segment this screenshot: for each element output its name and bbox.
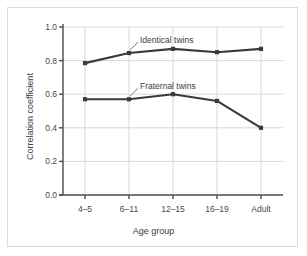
series-marker	[83, 61, 87, 65]
y-tick-label: 0.0	[31, 191, 57, 200]
series-annotation-label: Fraternal twins	[140, 82, 196, 91]
x-axis-title: Age group	[0, 227, 307, 236]
series-marker	[259, 126, 263, 130]
series-marker	[127, 97, 131, 101]
axis-tick-marks	[59, 27, 261, 199]
series-annotation-label: Identical twins	[140, 36, 193, 45]
annotation-leader-lines	[130, 42, 138, 96]
y-axis-title: Correlation coefficient	[26, 73, 35, 160]
series-marker	[215, 50, 219, 54]
y-tick-label: 0.8	[31, 57, 57, 66]
series-marker	[83, 97, 87, 101]
y-tick-label: 0.4	[31, 124, 57, 133]
series-marker	[171, 47, 175, 51]
x-tick-label: 16–19	[192, 205, 242, 214]
series-marker	[171, 92, 175, 96]
annotation-leader-line	[130, 88, 138, 96]
x-tick-label: 6–11	[104, 205, 154, 214]
y-tick-label: 0.2	[31, 157, 57, 166]
annotation-leader-line	[130, 42, 138, 50]
x-tick-label: Adult	[236, 205, 286, 214]
series-marker	[259, 47, 263, 51]
y-tick-label: 0.6	[31, 90, 57, 99]
y-tick-label: 1.0	[31, 23, 57, 32]
series-marker	[215, 99, 219, 103]
x-tick-label: 4–5	[60, 205, 110, 214]
series-marker	[127, 51, 131, 55]
x-tick-label: 12–15	[148, 205, 198, 214]
